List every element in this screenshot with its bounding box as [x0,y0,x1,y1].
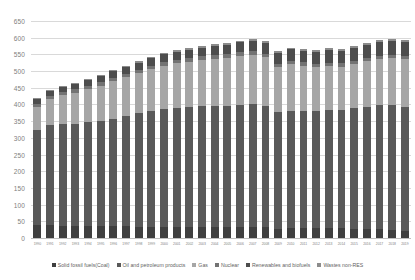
bar-segment [97,86,105,121]
x-axis-tick-label: 2015 [348,239,361,253]
bar-segment [223,227,231,238]
stacked-bar[interactable] [325,48,333,238]
bar-slot [158,21,171,238]
stacked-bar[interactable] [376,40,384,238]
stacked-bar[interactable] [160,53,168,238]
stacked-bar[interactable] [223,43,231,238]
x-axis-tick-label: 2016 [360,239,373,253]
bar-segment [122,226,130,238]
stacked-bar[interactable] [287,48,295,238]
bar-segment [350,108,358,228]
bar-segment [325,66,333,110]
legend-item[interactable]: Wastes non-RES [317,262,363,268]
bar-segment [376,105,384,229]
legend-item[interactable]: Oil and petroleum products [117,262,186,268]
x-axis-tick-label: 2019 [398,239,411,253]
bar-slot [170,21,183,238]
stacked-bar[interactable] [147,57,155,238]
stacked-bar[interactable] [262,41,270,238]
stacked-bar[interactable] [236,41,244,238]
x-axis-tick-label: 2003 [196,239,209,253]
legend-swatch-icon [117,263,121,267]
stacked-bar[interactable] [109,70,117,238]
legend-item[interactable]: Solid fossil fuels(Coal) [52,262,110,268]
bar-segment [198,106,206,226]
legend-label: Oil and petroleum products [123,262,186,268]
stacked-bar[interactable] [249,39,257,238]
bar-segment [122,116,130,226]
stacked-bar[interactable] [135,61,143,238]
stacked-bar[interactable] [300,49,308,238]
bar-segment [338,110,346,228]
stacked-bar[interactable] [97,75,105,238]
legend-item[interactable]: Nuclear [215,262,239,268]
bar-segment [401,59,409,106]
legend-item[interactable]: Renewables and biofuels [246,262,310,268]
stacked-bar[interactable] [84,79,92,238]
bar-segment [160,227,168,238]
bar-segment [185,227,193,238]
x-axis-tick-label: 2007 [246,239,259,253]
bar-segment [109,226,117,238]
bar-segment [211,227,219,238]
bar-segment [274,112,282,229]
bar-segment [71,226,79,238]
bar-segment [135,73,143,113]
y-axis-tick-label: 150 [14,184,25,191]
bar-segment [338,51,346,64]
y-axis-tick-label: 350 [14,118,25,125]
bar-segment [211,46,219,55]
bar-segment [274,67,282,112]
y-axis-tick-label: 550 [14,51,25,58]
bar-slot [44,21,57,238]
legend-item[interactable]: Gas [192,262,208,268]
bar-segment [109,119,117,226]
y-axis-tick-label: 50 [18,218,25,225]
bar-segment [46,125,54,225]
bar-segment [249,227,257,238]
stacked-bar[interactable] [388,39,396,238]
bar-slot [196,21,209,238]
stacked-bar[interactable] [211,44,219,238]
stacked-bar[interactable] [274,51,282,238]
bar-segment [388,105,396,229]
x-axis-tick-label: 1992 [56,239,69,253]
bar-segment [249,41,257,51]
stacked-bar[interactable] [122,66,130,238]
stacked-bar[interactable] [338,49,346,238]
stacked-bar[interactable] [173,50,181,238]
bar-segment [198,227,206,238]
bar-segment [388,230,396,238]
bar-segment [97,121,105,226]
stacked-bar[interactable] [59,86,67,238]
bar-slot [82,21,95,238]
stacked-bar[interactable] [185,48,193,238]
stacked-bar[interactable] [71,83,79,238]
bar-segment [173,63,181,108]
bar-segment [376,42,384,56]
bar-slot [234,21,247,238]
bar-segment [388,41,396,55]
bar-segment [262,106,270,228]
stacked-bar[interactable] [401,40,409,238]
bar-segment [160,54,168,62]
stacked-bar[interactable] [350,46,358,238]
stacked-bar[interactable] [198,46,206,238]
x-axis-tick-label: 2013 [322,239,335,253]
stacked-bar[interactable] [46,90,54,239]
bar-slot [335,21,348,238]
bar-segment [300,111,308,228]
bar-segment [363,107,371,229]
legend-swatch-icon [192,263,196,267]
bar-slot [56,21,69,238]
stacked-bar[interactable] [312,50,320,238]
bar-segment [401,231,409,238]
y-axis-tick-label: 250 [14,151,25,158]
bar-segment [33,225,41,238]
stacked-bar[interactable] [363,43,371,238]
stacked-bar[interactable] [33,98,41,238]
bar-segment [59,226,67,238]
bar-segment [363,229,371,238]
x-axis-tick-label: 1990 [31,239,44,253]
bar-segment [59,124,67,226]
